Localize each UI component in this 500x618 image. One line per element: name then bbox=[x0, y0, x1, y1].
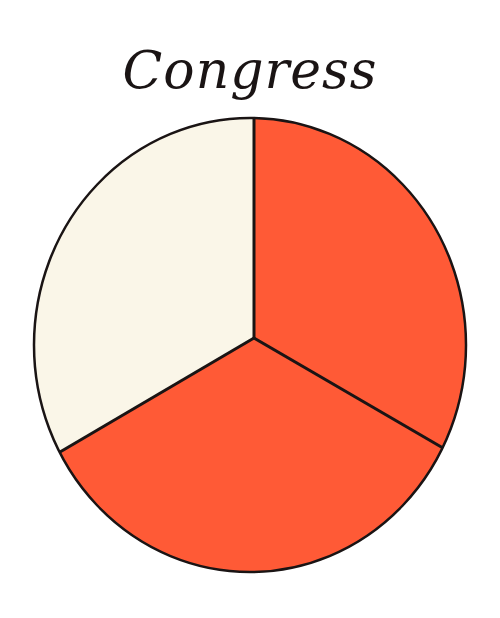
pie-chart bbox=[0, 0, 500, 618]
